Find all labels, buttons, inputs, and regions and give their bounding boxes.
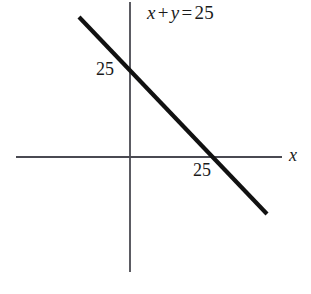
y-intercept-tick-label: 25 (96, 60, 114, 78)
equation-var-x: x (147, 2, 156, 23)
x-axis-label: x (289, 146, 297, 164)
equation-equals: = (179, 2, 194, 23)
plot-svg (0, 0, 311, 294)
equation-operator: + (156, 2, 171, 23)
equation-line (79, 17, 267, 214)
equation-rhs-value: 25 (195, 2, 215, 23)
equation-annotation: x+y=25 (147, 3, 214, 22)
coordinate-plane-figure: x+y=25 25 25 x (0, 0, 311, 294)
x-intercept-tick-label: 25 (193, 161, 211, 179)
